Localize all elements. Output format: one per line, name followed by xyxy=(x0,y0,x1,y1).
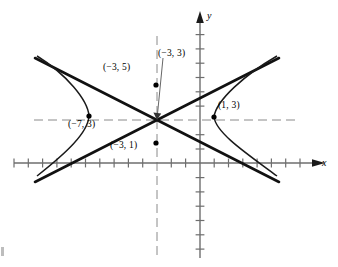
y-axis xyxy=(196,11,205,258)
y-axis-label: y xyxy=(207,10,211,21)
center-leader-line xyxy=(157,58,163,119)
hyperbola-figure xyxy=(0,0,338,267)
point-focus-upper xyxy=(153,82,158,87)
point-focus-lower xyxy=(153,140,158,145)
page-edge-artifact xyxy=(1,247,4,256)
label-vertex-right: (1, 3) xyxy=(218,100,240,110)
label-center: (−3, 3) xyxy=(158,48,185,58)
label-focus-lower: (−3, 1) xyxy=(110,140,137,150)
x-axis xyxy=(14,159,325,168)
label-focus-upper: (−3, 5) xyxy=(103,62,130,72)
x-axis-label: x xyxy=(322,157,326,168)
point-vertex-left xyxy=(86,113,91,118)
label-vertex-left: (−7, 3) xyxy=(68,119,95,129)
point-vertex-right xyxy=(211,114,216,119)
